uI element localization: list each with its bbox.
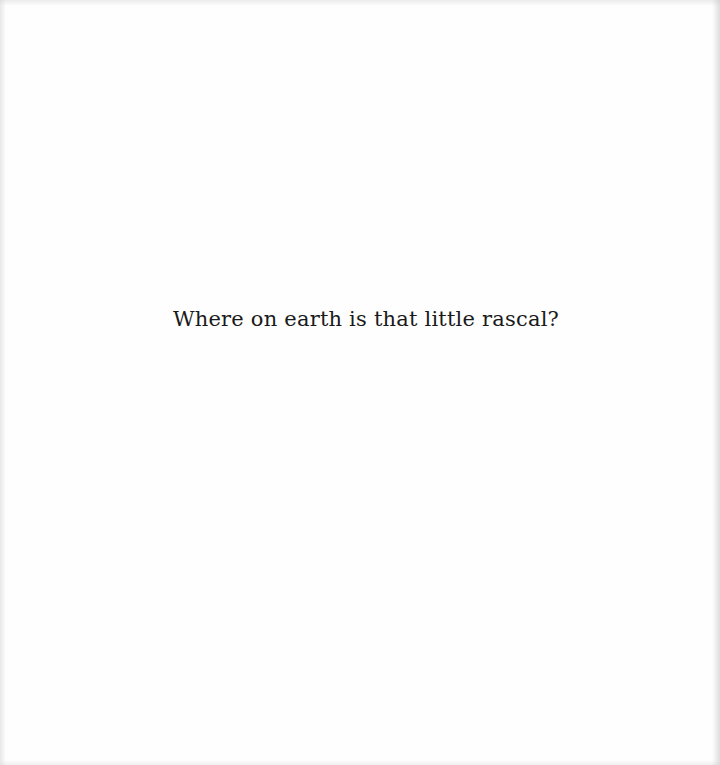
scan-edge-left [0,0,6,765]
scan-edge-top [0,0,720,6]
page-text: Where on earth is that little rascal? [0,305,720,333]
book-page: Where on earth is that little rascal? [0,0,720,765]
scan-edge-bottom [0,760,720,765]
page-gutter-shadow [712,0,720,765]
